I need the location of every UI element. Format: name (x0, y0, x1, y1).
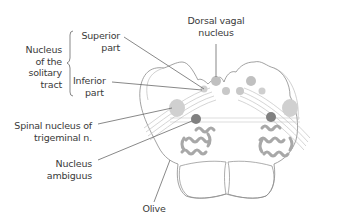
pyramid-right (228, 161, 274, 198)
label-nucleus-solitary-tract: Nucleus of the solitary tract (18, 44, 62, 90)
label-spinal-trigeminal: Spinal nucleus of trigeminal n. (10, 120, 92, 143)
solitary-nucleus-right (259, 88, 266, 95)
olive-right (260, 126, 292, 156)
label-dorsal-vagal-nucleus: Dorsal vagal nucleus (184, 15, 248, 38)
hypoglossal-nucleus-right (236, 87, 244, 95)
label-olive: Olive (136, 203, 172, 215)
dorsal-vagal-nucleus-left (211, 76, 221, 86)
label-superior-part: Superior part (76, 30, 120, 53)
pyramid-left (179, 161, 226, 198)
label-nucleus-ambiguus: Nucleus ambiguus (40, 158, 92, 181)
nucleus-ambiguus-left (191, 114, 201, 124)
hypoglossal-nucleus-left (222, 87, 230, 95)
dorsal-vagal-nucleus-right (246, 76, 256, 86)
spinal-trigeminal-nucleus-right (282, 99, 298, 117)
medulla-diagram (0, 0, 356, 223)
nucleus-ambiguus-right (266, 112, 276, 122)
olive-left (182, 128, 214, 154)
label-inferior-part: Inferior part (73, 75, 117, 98)
